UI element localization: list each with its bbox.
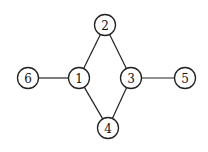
edge-1-2 <box>84 34 101 68</box>
node-label: 3 <box>127 72 135 86</box>
edge-4-3 <box>112 88 126 119</box>
nodes-group: 123456 <box>18 15 196 139</box>
edges-group <box>39 34 175 118</box>
node-label: 2 <box>101 19 109 33</box>
node-1: 1 <box>69 68 90 89</box>
edge-2-3 <box>110 34 127 68</box>
node-4: 4 <box>98 118 119 139</box>
node-3: 3 <box>121 68 142 89</box>
node-2: 2 <box>95 15 116 36</box>
node-label: 1 <box>75 72 83 86</box>
node-6: 6 <box>18 68 39 89</box>
node-5: 5 <box>175 68 196 89</box>
node-label: 6 <box>24 72 32 86</box>
node-label: 5 <box>181 72 189 86</box>
edge-1-4 <box>84 87 102 119</box>
node-label: 4 <box>104 122 112 136</box>
graph-diagram: 123456 <box>0 0 208 152</box>
